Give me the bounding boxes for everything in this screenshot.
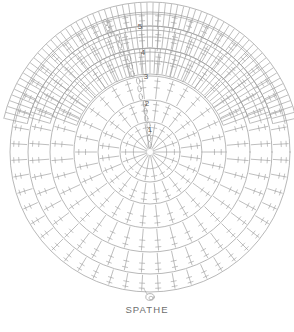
chain-stitch-oval xyxy=(139,93,143,100)
figure-caption: SPATHE xyxy=(0,304,294,315)
stitch-crossbar xyxy=(218,245,222,248)
stitch-crossbar xyxy=(46,99,48,104)
stitch-crossbar xyxy=(247,90,250,94)
stitch-crossbar xyxy=(133,14,138,15)
stitch-crossbar xyxy=(51,203,53,208)
stitch-crossbar xyxy=(80,31,85,34)
stitch-crossbar xyxy=(154,199,159,200)
stitch-crossbar xyxy=(141,88,146,89)
stitch-crossbar xyxy=(77,267,81,270)
chain-stitch-oval xyxy=(148,141,152,148)
stitch-crossbar xyxy=(76,201,79,205)
stitch-crossbar xyxy=(54,220,57,224)
stitch-crossbar xyxy=(96,112,99,116)
stitch-crossbar xyxy=(119,113,123,116)
stitch-crossbar xyxy=(197,156,198,161)
stitch-crossbar xyxy=(216,263,220,266)
stitch-crossbar xyxy=(218,267,222,270)
stitch-crossbar xyxy=(116,95,121,98)
stitch-crossbar xyxy=(67,47,71,50)
stitch-crossbar xyxy=(155,81,160,82)
stitch-crossbar xyxy=(116,125,119,129)
stitch-crossbar xyxy=(252,206,254,211)
stitch-crossbar xyxy=(136,172,141,175)
stitch-crossbar xyxy=(235,190,237,195)
chain-stitch-oval xyxy=(136,78,140,85)
chain-stitch-oval xyxy=(128,63,133,70)
stitch-crossbar xyxy=(201,112,204,116)
stitch-crossbar xyxy=(67,254,71,257)
stitch-crossbar xyxy=(183,89,188,92)
stitch-ring-2 xyxy=(100,102,200,202)
stitch-crossbar xyxy=(199,223,203,226)
stitch-crossbar xyxy=(180,207,185,210)
stitch-crossbar xyxy=(256,234,259,238)
stitch-crossbar xyxy=(86,54,90,57)
stitch-crossbar xyxy=(205,51,210,54)
stitch-crossbar xyxy=(140,223,145,224)
stitch-crossbar xyxy=(252,99,254,104)
stitch-crossbar xyxy=(204,48,209,50)
stitch-crossbar xyxy=(221,201,224,205)
stitch-crossbar xyxy=(154,216,159,217)
stitch-crossbar xyxy=(26,87,28,92)
stitch-crossbar xyxy=(206,108,209,112)
stitch-crossbar xyxy=(201,53,206,55)
stitch-crossbar xyxy=(91,48,96,50)
stitch-crossbar xyxy=(82,56,86,59)
stitch-crossbar xyxy=(153,193,158,194)
stitch-crossbar xyxy=(59,77,62,81)
stitch-crossbar xyxy=(197,143,198,148)
stitch-crossbar xyxy=(229,187,231,192)
stitch-crossbar xyxy=(272,87,274,92)
stitch-crossbar xyxy=(252,231,255,235)
stitch-crossbar xyxy=(112,89,117,92)
stitch-crossbar xyxy=(111,179,114,183)
stitch-crossbar xyxy=(134,37,139,38)
stitch-crossbar xyxy=(32,220,35,224)
stitch-crossbar xyxy=(183,212,188,215)
stitch-crossbar xyxy=(186,121,189,125)
spathe-round-chart: 12345 xyxy=(0,0,294,332)
stitch-crossbar xyxy=(238,217,241,221)
stitch-crossbar xyxy=(154,104,159,105)
stitch-crossbar xyxy=(78,59,82,62)
chain-stitch-oval xyxy=(143,108,147,115)
stitch-crossbar xyxy=(206,192,209,196)
stitch-crossbar xyxy=(261,218,264,222)
stitch-crossbar xyxy=(167,15,172,16)
stitch-crossbar xyxy=(96,188,99,192)
stitch-crossbar xyxy=(202,228,206,231)
stitch-crossbar xyxy=(191,155,192,160)
stitch-crossbar xyxy=(243,220,246,224)
stitch-crossbar xyxy=(94,249,99,251)
stitch-crossbar xyxy=(116,175,119,179)
stitch-crossbar xyxy=(97,223,101,226)
stitch-crossbar xyxy=(110,231,115,233)
round-label-4: 4 xyxy=(141,48,146,57)
stitch-crossbar xyxy=(91,108,94,112)
stitch-crossbar xyxy=(102,143,103,148)
stitch-crossbar xyxy=(142,193,147,194)
stitch-crossbar xyxy=(81,240,85,243)
chain-stitch-oval xyxy=(137,85,141,92)
stitch-crossbar xyxy=(201,249,206,251)
stitch-crossbar xyxy=(63,190,65,195)
stitch-crossbar xyxy=(216,31,221,34)
stitch-crossbar xyxy=(128,15,133,16)
chain-start-3 xyxy=(136,78,143,101)
stitch-crossbar xyxy=(188,237,193,239)
stitch-crossbar xyxy=(45,69,48,73)
starting-loop xyxy=(144,289,154,300)
stitch-crossbar xyxy=(64,258,68,261)
round-label-1: 1 xyxy=(148,125,153,134)
stitch-crossbar xyxy=(109,155,110,160)
stitch-crossbar xyxy=(142,111,147,112)
stitch-crossbar xyxy=(107,237,112,239)
stitch-crossbar xyxy=(116,207,121,210)
stitch-crossbar xyxy=(191,144,192,149)
stitch-crossbar xyxy=(160,37,165,38)
stitch-crossbar xyxy=(160,130,165,133)
stitch-crossbar xyxy=(177,113,181,116)
round-label-3: 3 xyxy=(144,72,149,81)
